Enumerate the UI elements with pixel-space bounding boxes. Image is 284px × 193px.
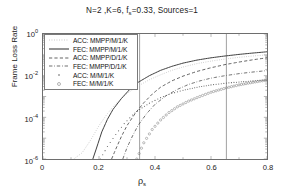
legend: ACC: MMPP/M/1/KFEC: MMPP/M/1/KACC: MMPP/… [44, 34, 138, 90]
x-tick-0: 0 [27, 163, 57, 172]
figure: N=2 ,K=6, fs=0.33, Sources=1 Frame Loss … [0, 0, 284, 193]
legend-label-3: FEC: MMPP/D/1/K [71, 63, 126, 70]
legend-item-2: ACC: MMPP/D/1/K [47, 53, 135, 62]
x-axis-title-sub: s [143, 181, 146, 187]
legend-label-1: FEC: MMPP/M/1/K [71, 46, 127, 53]
y-tick-1: 10-2 [8, 70, 38, 81]
series-4 [100, 79, 267, 159]
legend-item-0: ACC: MMPP/M/1/K [47, 36, 135, 45]
legend-item-4: ACC: M/M/1/K [47, 71, 135, 80]
x-tick-3: 0.6 [197, 163, 227, 172]
legend-label-2: ACC: MMPP/D/1/K [71, 54, 127, 61]
series-3 [123, 71, 267, 159]
legend-item-5: FEC: M/M/1/K [47, 79, 135, 88]
legend-swatch-dashdot [47, 62, 71, 70]
legend-label-5: FEC: M/M/1/K [71, 80, 113, 87]
chart-title: N=2 ,K=6, fs=0.33, Sources=1 [0, 6, 284, 16]
legend-label-0: ACC: MMPP/M/1/K [71, 37, 128, 44]
y-tick-0: 100 [8, 28, 38, 39]
x-tick-2: 0.4 [140, 163, 170, 172]
legend-swatch-dot-marker [47, 71, 71, 79]
x-axis-title: ρs [0, 176, 284, 187]
legend-item-3: FEC: MMPP/D/1/K [47, 62, 135, 71]
legend-swatch-circle-marker [47, 80, 71, 88]
x-tick-1: 0.2 [84, 163, 114, 172]
series-5 [136, 79, 267, 159]
chart-title-post: =0.33, Sources=1 [132, 6, 198, 15]
legend-item-1: FEC: MMPP/M/1/K [47, 45, 135, 54]
legend-label-4: ACC: M/M/1/K [71, 72, 114, 79]
legend-swatch-dotted [47, 36, 71, 44]
y-axis-title: Frame Loss Rate [10, 0, 19, 117]
legend-swatch-solid [47, 45, 71, 53]
legend-swatch-dashed [47, 54, 71, 62]
chart-title-pre: N=2 ,K=6, f [86, 6, 129, 15]
y-tick-2: 10-4 [8, 113, 38, 124]
x-tick-4: 0.8 [253, 163, 283, 172]
